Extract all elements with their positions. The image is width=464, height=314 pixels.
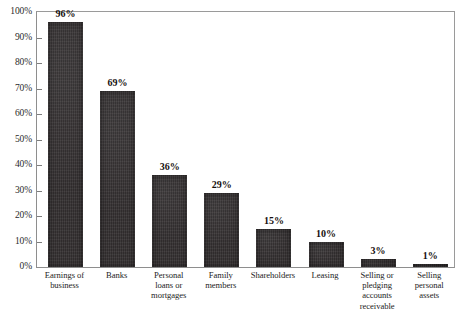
bar	[361, 259, 396, 267]
y-axis-tick-label: 0%	[0, 262, 32, 272]
y-axis-tick-label: 10%	[0, 237, 32, 247]
bar	[100, 91, 135, 267]
bar	[204, 193, 239, 267]
bar	[309, 242, 344, 268]
bar	[48, 22, 83, 267]
y-axis-tick-mark	[37, 165, 42, 166]
bar-chart: 0%10%20%30%40%50%60%70%80%90%100% 96%69%…	[0, 0, 464, 314]
bar-value-label: 3%	[352, 246, 405, 256]
x-axis-category-label: Family members	[191, 270, 250, 290]
y-axis-tick-mark	[37, 191, 42, 192]
y-axis-tick-label: 60%	[0, 109, 32, 119]
y-axis-tick-label: 40%	[0, 160, 32, 170]
x-axis-category-label: Selling or pledging accounts receivable	[348, 270, 407, 311]
plot-area: 96%69%36%29%15%10%3%1%	[37, 12, 454, 267]
y-axis-tick-mark	[37, 140, 42, 141]
bar	[256, 229, 291, 267]
y-axis-tick-label: 50%	[0, 135, 32, 145]
y-axis-tick-label: 80%	[0, 58, 32, 68]
bar	[413, 264, 448, 267]
x-axis-category-label: Shareholders	[243, 270, 302, 280]
y-axis-tick-label: 70%	[0, 84, 32, 94]
y-axis-tick-label: 90%	[0, 33, 32, 43]
bar-value-label: 1%	[404, 251, 457, 261]
bar-value-label: 10%	[300, 229, 353, 239]
bar-value-label: 15%	[247, 216, 300, 226]
bar-value-label: 36%	[143, 162, 196, 172]
y-axis-tick-mark	[37, 216, 42, 217]
x-axis-category-label: Earnings of business	[35, 270, 94, 290]
bar-value-label: 69%	[91, 78, 144, 88]
y-axis-tick-label: 100%	[0, 7, 32, 17]
bar	[152, 175, 187, 267]
y-axis-tick-mark	[37, 38, 42, 39]
y-axis-tick-label: 20%	[0, 211, 32, 221]
x-axis-category-label: Leasing	[296, 270, 355, 280]
x-axis-category-label: Banks	[87, 270, 146, 280]
y-axis-tick-mark	[37, 63, 42, 64]
x-axis-category-label: Personal loans or mortgages	[139, 270, 198, 301]
y-axis-tick-mark	[37, 89, 42, 90]
y-axis: 0%10%20%30%40%50%60%70%80%90%100%	[0, 0, 34, 314]
y-axis-tick-mark	[37, 114, 42, 115]
y-axis-tick-label: 30%	[0, 186, 32, 196]
plot-frame: 96%69%36%29%15%10%3%1%	[36, 11, 455, 268]
y-axis-tick-mark	[37, 242, 42, 243]
x-axis-category-label: Selling personal assets	[400, 270, 459, 301]
bar-value-label: 96%	[39, 9, 92, 19]
x-axis: Earnings of businessBanksPersonal loans …	[36, 270, 455, 314]
bar-value-label: 29%	[195, 180, 248, 190]
